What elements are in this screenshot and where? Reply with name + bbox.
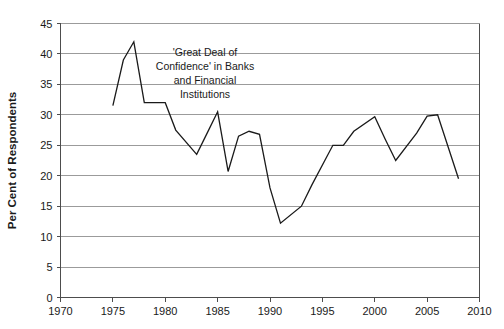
annotation-line-3: and Financial (174, 74, 236, 86)
y-axis-title: Per Cent of Respondents (6, 92, 18, 229)
x-tick-label: 1980 (153, 305, 177, 317)
y-tick-label: 35 (40, 78, 52, 90)
x-tick-label: 1990 (258, 305, 282, 317)
line-chart: 051015202530354045 197019751980198519901… (0, 0, 504, 329)
x-tick-label: 1995 (310, 305, 334, 317)
chart-container: 051015202530354045 197019751980198519901… (0, 0, 504, 329)
y-tick-label: 40 (40, 48, 52, 60)
y-tick-label: 5 (46, 261, 52, 273)
y-tick-label: 45 (40, 18, 52, 30)
x-tick-label: 2000 (363, 305, 387, 317)
annotation-line-4: Institutions (180, 88, 230, 100)
x-axis-ticks: 197019751980198519901995200020052010 (48, 298, 491, 317)
x-tick-label: 1975 (101, 305, 125, 317)
y-tick-label: 0 (46, 292, 52, 304)
x-tick-label: 2005 (415, 305, 439, 317)
annotation-line-1: 'Great Deal of (173, 46, 238, 58)
y-tick-label: 30 (40, 109, 52, 121)
x-tick-label: 1985 (205, 305, 229, 317)
y-tick-label: 15 (40, 200, 52, 212)
x-tick-label: 1970 (48, 305, 72, 317)
y-tick-label: 10 (40, 231, 52, 243)
y-axis-ticks: 051015202530354045 (40, 18, 60, 304)
x-tick-label: 2010 (467, 305, 491, 317)
annotation-line-2: Confidence' in Banks (156, 60, 254, 72)
y-tick-label: 20 (40, 170, 52, 182)
y-tick-label: 25 (40, 139, 52, 151)
